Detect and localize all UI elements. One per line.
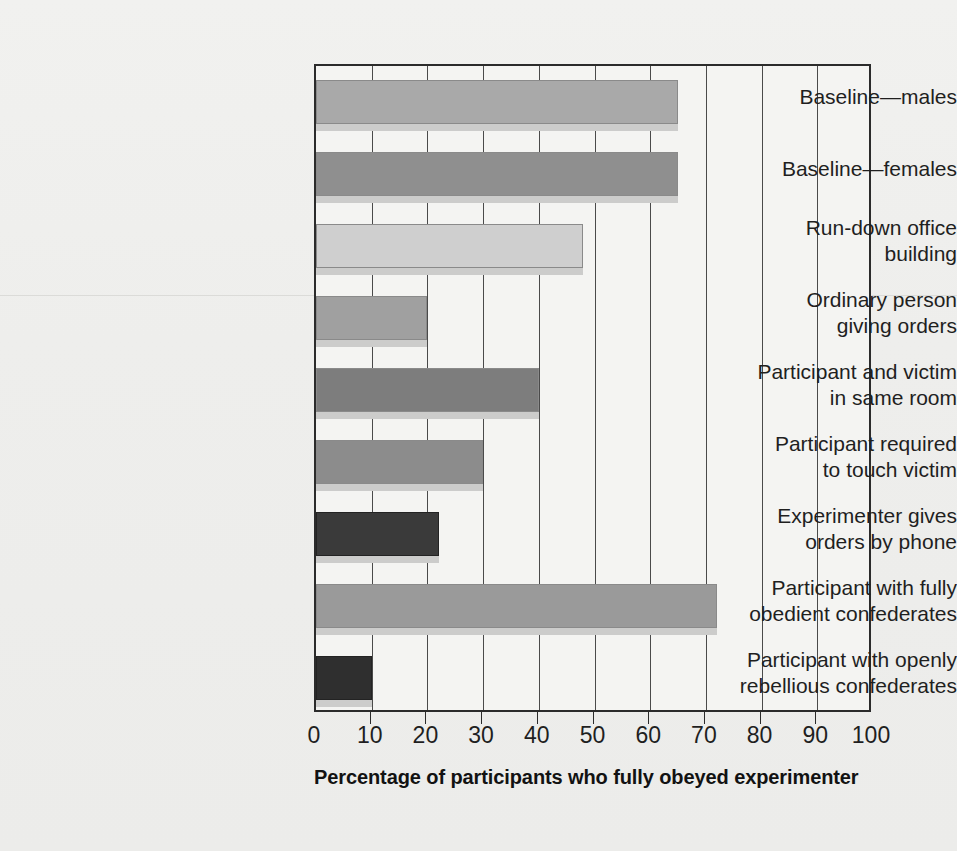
category-label-line: rebellious confederates	[657, 673, 957, 699]
category-label: Baseline—females	[657, 156, 957, 182]
bar	[316, 296, 427, 340]
category-label-line: giving orders	[657, 313, 957, 339]
category-label-line: to touch victim	[657, 457, 957, 483]
bar	[316, 512, 439, 556]
category-label: Run-down officebuilding	[657, 215, 957, 267]
bar	[316, 440, 483, 484]
category-label-line: building	[657, 241, 957, 267]
category-label-line: Participant required	[657, 431, 957, 457]
tick-label-100: 100	[836, 722, 906, 749]
category-label: Experimenter givesorders by phone	[657, 503, 957, 555]
category-label-line: Participant with fully	[657, 575, 957, 601]
category-label: Participant requiredto touch victim	[657, 431, 957, 483]
bar-chart-figure: Baseline—malesBaseline—femalesRun-down o…	[0, 0, 957, 851]
category-label-line: Experimenter gives	[657, 503, 957, 529]
category-label-line: Baseline—females	[657, 156, 957, 182]
category-label-line: obedient confederates	[657, 601, 957, 627]
category-label-line: Participant and victim	[657, 359, 957, 385]
category-label-line: Baseline—males	[657, 84, 957, 110]
bar	[316, 152, 678, 196]
category-label: Participant with openlyrebellious confed…	[657, 647, 957, 699]
category-label-line: Ordinary person	[657, 287, 957, 313]
category-label: Participant with fullyobedient confedera…	[657, 575, 957, 627]
bar	[316, 368, 539, 412]
category-label-line: orders by phone	[657, 529, 957, 555]
bar	[316, 224, 583, 268]
x-axis-title: Percentage of participants who fully obe…	[314, 766, 954, 789]
category-label: Ordinary persongiving orders	[657, 287, 957, 339]
category-label-line: Run-down office	[657, 215, 957, 241]
category-label: Baseline—males	[657, 84, 957, 110]
category-label: Participant and victimin same room	[657, 359, 957, 411]
category-label-line: in same room	[657, 385, 957, 411]
bar	[316, 80, 678, 124]
category-label-line: Participant with openly	[657, 647, 957, 673]
bar	[316, 656, 372, 700]
